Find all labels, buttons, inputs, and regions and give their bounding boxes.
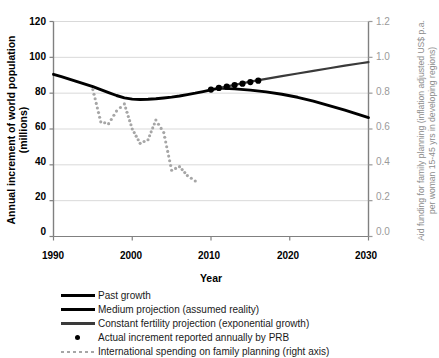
legend-key-line-icon — [58, 302, 98, 316]
axis-lines — [50, 22, 373, 241]
legend-label: International spending on family plannin… — [98, 346, 329, 357]
legend-key-line-icon — [58, 316, 98, 330]
legend-label: Past growth — [98, 290, 151, 301]
legend-item-constant-fertility: Constant fertility projection (exponenti… — [58, 316, 418, 330]
legend-item-family-planning-spending: International spending on family plannin… — [58, 344, 418, 358]
chart-legend: Past growth Medium projection (assumed r… — [58, 288, 418, 358]
legend-label: Actual increment reported annually by PR… — [98, 332, 289, 343]
legend-key-line-icon — [58, 288, 98, 302]
legend-item-prb-increment: Actual increment reported annually by PR… — [58, 330, 418, 344]
gridlines — [54, 22, 369, 237]
legend-item-medium-projection: Medium projection (assumed reality) — [58, 302, 418, 316]
legend-label: Constant fertility projection (exponenti… — [98, 318, 309, 329]
legend-key-dot-icon — [58, 330, 98, 344]
legend-key-dotted-line-icon — [58, 344, 98, 358]
legend-label: Medium projection (assumed reality) — [98, 304, 259, 315]
legend-item-past-growth: Past growth — [58, 288, 418, 302]
